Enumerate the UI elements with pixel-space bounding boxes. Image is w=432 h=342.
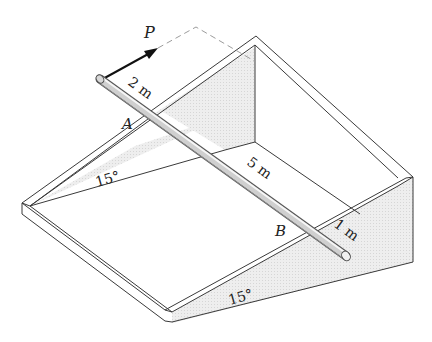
front-ramp-shaded-face: [172, 186, 413, 323]
force-label-p: P: [143, 23, 155, 42]
point-b-label: B: [274, 222, 286, 240]
outer-rim-front: [22, 203, 165, 310]
point-a-label: A: [120, 115, 133, 133]
force-arrow-p: [101, 48, 158, 80]
left-ramp-upper-diagonal: [30, 116, 152, 206]
rim-left-thickness: [22, 203, 172, 322]
dim-5m-label: 5 m: [244, 153, 275, 182]
inner-back-wall: [152, 47, 255, 150]
rod-on-box-diagram: P A B 2 m 5 m 1 m 15° 15°: [0, 0, 432, 342]
